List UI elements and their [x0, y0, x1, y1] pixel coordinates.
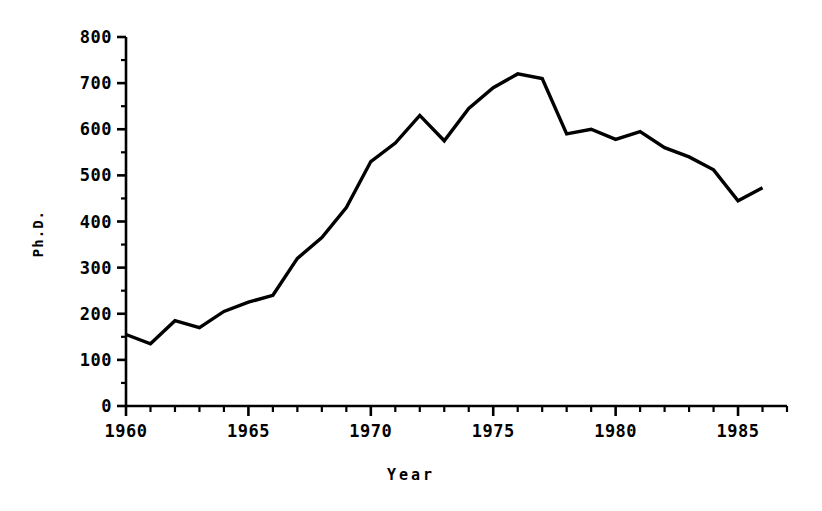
y-tick-label: 700	[60, 73, 112, 93]
x-tick-label: 1980	[594, 421, 637, 441]
x-axis-ticks	[126, 406, 787, 416]
x-tick-label: 1960	[105, 421, 148, 441]
x-tick-label: 1965	[227, 421, 270, 441]
data-series-line	[126, 74, 763, 344]
x-tick-label: 1975	[472, 421, 515, 441]
chart-axes	[126, 37, 787, 406]
chart-figure: 0100200300400500600700800 19601965197019…	[0, 0, 822, 511]
y-tick-label: 800	[60, 27, 112, 47]
x-tick-label: 1970	[349, 421, 392, 441]
y-tick-label: 300	[60, 258, 112, 278]
x-tick-label: 1985	[717, 421, 760, 441]
x-axis-title: Year	[0, 466, 822, 484]
y-tick-label: 600	[60, 119, 112, 139]
y-tick-label: 500	[60, 165, 112, 185]
y-tick-label: 100	[60, 350, 112, 370]
y-tick-label: 0	[60, 396, 112, 416]
y-axis-title: Ph.D.	[30, 210, 70, 257]
y-tick-label: 200	[60, 304, 112, 324]
y-axis-ticks	[117, 37, 126, 406]
